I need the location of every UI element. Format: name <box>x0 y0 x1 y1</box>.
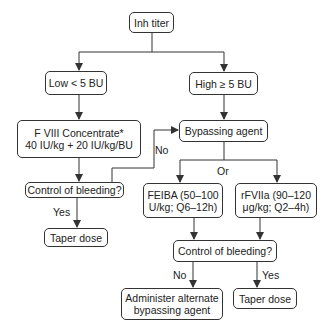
edge-label-yes-left: Yes <box>53 206 70 218</box>
node-taper-dose-left: Taper dose <box>44 228 108 247</box>
node-fviii-concentrate: F VIII Concentrate* 40 IU/kg + 20 IU/kg/… <box>17 120 141 158</box>
node-taper-dose-right: Taper dose <box>233 288 297 309</box>
node-inh-titer: Inh titer <box>129 12 174 33</box>
node-control-of-bleeding-right: Control of bleeding? <box>173 240 277 262</box>
node-administer-alternate-agent: Administer alternate bypassing agent <box>121 288 223 320</box>
edge-label-no-right: No <box>173 269 186 281</box>
edge-label-yes-right: Yes <box>262 269 279 281</box>
node-low-titer: Low < 5 BU <box>45 71 107 95</box>
node-high-titer: High ≥ 5 BU <box>189 72 258 95</box>
hemophilia-inhibitor-treatment-flowchart: Inh titer Low < 5 BU High ≥ 5 BU F VIII … <box>0 0 327 328</box>
edge-label-no-left: No <box>155 144 168 156</box>
node-rfviia: rFVIIa (90–120 μg/kg; Q2–4h) <box>235 183 317 218</box>
edge-label-or: Or <box>217 165 229 177</box>
node-control-of-bleeding-left: Control of bleeding? <box>25 182 124 198</box>
node-bypassing-agent: Bypassing agent <box>179 120 268 142</box>
node-feiba: FEIBA (50–100 U/kg; Q6–12h) <box>143 183 223 218</box>
